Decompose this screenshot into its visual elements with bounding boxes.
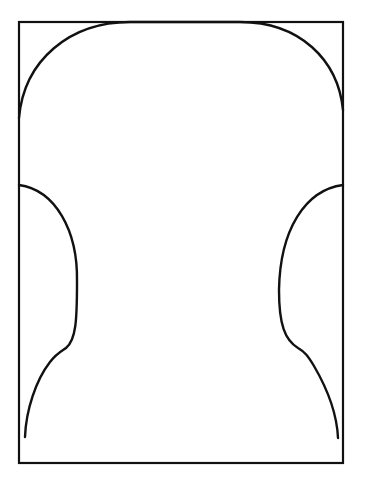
right-lobe-curve	[279, 185, 343, 438]
outer-frame	[19, 22, 343, 463]
left-lobe-curve	[19, 185, 77, 437]
diagram-canvas	[0, 0, 369, 485]
top-arc-curve	[19, 22, 343, 118]
